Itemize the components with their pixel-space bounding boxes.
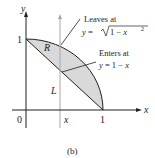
x-marker-label: x [63, 114, 69, 125]
x-axis-label: x [143, 104, 149, 115]
vertical-arrow-icon [58, 14, 62, 19]
caption: (b) [67, 146, 78, 156]
enters-label-line1: Enters at [99, 48, 130, 58]
region-label: R [43, 42, 50, 53]
x-tick-label: 1 [100, 114, 105, 125]
y-axis-label: y [20, 3, 26, 14]
line-label: L [50, 85, 57, 96]
leaves-expr: 1 − x [110, 27, 127, 37]
leaves-label-line2: y = [81, 27, 93, 37]
leaves-label-line1: Leaves at [84, 14, 117, 24]
leader-leaves [61, 19, 80, 45]
enters-label-line2: y = 1 − x [98, 60, 129, 70]
origin-label: 0 [17, 114, 22, 125]
y-tick-label: 1 [17, 34, 22, 45]
diagram: y x 1 0 x 1 R L Leaves at y = 1 − x 2 En… [0, 0, 155, 158]
x-axis-arrow-icon [136, 108, 142, 112]
leaves-exponent: 2 [141, 26, 144, 32]
